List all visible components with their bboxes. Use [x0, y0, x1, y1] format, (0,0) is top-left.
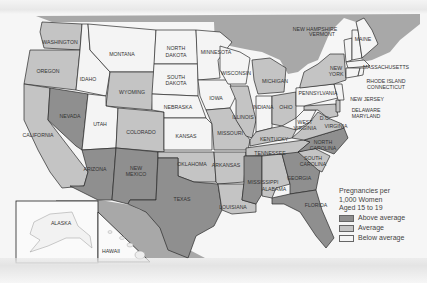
bottom-fade	[0, 258, 427, 283]
label-nebraska: NEBRASKA	[164, 104, 193, 110]
label-rhode-island: RHODE ISLAND	[367, 78, 406, 84]
label-montana: MONTANA	[109, 51, 135, 57]
label-iowa: IOWA	[209, 95, 223, 101]
legend: Pregnancies per 1,000 Women Aged 15 to 1…	[339, 187, 405, 243]
label-utah: UTAH	[93, 121, 107, 127]
label-south-dakota-2: DAKOTA	[166, 80, 187, 86]
swatch-below-average	[339, 235, 354, 242]
label-florida: FLORIDA	[305, 202, 328, 208]
state-arkansas[interactable]	[214, 152, 246, 184]
label-texas: TEXAS	[173, 196, 191, 202]
label-idaho: IDAHO	[80, 76, 96, 82]
label-new-york-2: YORK	[329, 71, 344, 77]
label-south-carolina-2: CAROLINA	[300, 161, 327, 167]
label-dc: D.C.	[320, 115, 330, 121]
label-new-jersey: NEW JERSEY	[350, 96, 384, 102]
label-west-virginia-2: VIRGINIA	[294, 125, 317, 131]
legend-item-below: Below average	[339, 234, 405, 243]
label-missouri: MISSOURI	[217, 130, 243, 136]
label-nevada: NEVADA	[60, 113, 81, 119]
label-maryland: MARYLAND	[352, 113, 381, 119]
label-north-dakota-1: NORTH	[167, 45, 186, 51]
label-michigan: MICHIGAN	[262, 78, 288, 84]
label-oklahoma: OKLAHOMA	[177, 161, 207, 167]
label-connecticut: CONNECTICUT	[367, 84, 406, 90]
label-mississippi: MISSISSIPPI	[248, 179, 279, 185]
state-washington[interactable]	[40, 22, 82, 50]
label-maine: MAINE	[355, 36, 372, 42]
label-kansas: KANSAS	[175, 133, 197, 139]
label-colorado: COLORADO	[126, 129, 156, 135]
label-alaska: ALASKA	[51, 220, 72, 226]
alaska-inset	[16, 201, 98, 263]
label-indiana: INDIANA	[252, 104, 274, 110]
label-kentucky: KENTUCKY	[260, 136, 289, 142]
label-delaware: DELAWARE	[352, 107, 381, 113]
label-massachusetts: MASSACHUSETTS	[363, 64, 410, 70]
label-washington: WASHINGTON	[42, 39, 78, 45]
label-arizona: ARIZONA	[83, 166, 107, 172]
label-virginia: VIRGINIA	[325, 123, 348, 129]
state-indiana[interactable]	[256, 96, 272, 132]
label-new-hampshire: NEW HAMPSHIRE	[293, 26, 338, 32]
label-new-mexico-2: MEXICO	[126, 171, 146, 177]
state-delaware[interactable]	[336, 100, 340, 112]
swatch-above-average	[339, 215, 354, 222]
label-north-dakota-2: DAKOTA	[166, 52, 187, 58]
label-north-carolina-2: CAROLINA	[310, 145, 337, 151]
label-california: CALIFORNIA	[22, 132, 54, 138]
label-wyoming: WYOMING	[119, 89, 145, 95]
top-fade	[0, 0, 427, 14]
label-arkansas: ARKANSAS	[212, 162, 241, 168]
legend-title: Pregnancies per 1,000 Women Aged 15 to 1…	[339, 187, 405, 213]
label-wisconsin: WISCONSIN	[221, 70, 251, 76]
swatch-average	[339, 225, 354, 232]
label-minnesota: MINNESOTA	[201, 49, 232, 55]
legend-item-above: Above average	[339, 214, 405, 223]
label-louisiana: LOUISIANA	[219, 204, 247, 210]
label-georgia: GEORGIA	[287, 175, 312, 181]
label-oregon: OREGON	[36, 68, 59, 74]
label-illinois: ILLINOIS	[232, 114, 254, 120]
legend-item-average: Average	[339, 224, 405, 233]
label-tennessee: TENNESSEE	[254, 150, 286, 156]
label-pennsylvania: PENNSYLVANIA	[298, 90, 338, 96]
label-hawaii: HAWAII	[102, 248, 120, 254]
label-ohio: OHIO	[279, 104, 292, 110]
label-alabama: ALABAMA	[262, 186, 287, 192]
